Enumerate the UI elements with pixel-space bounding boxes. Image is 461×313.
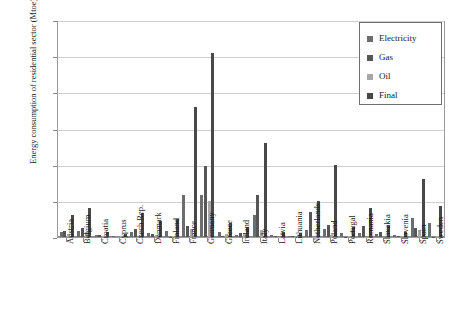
- bar: [218, 232, 221, 237]
- bar-group: [321, 22, 339, 237]
- x-tick-label: Denmark: [154, 212, 163, 244]
- x-tick-label: Spain: [419, 225, 428, 244]
- x-label-cell: Lithuania: [286, 244, 304, 312]
- legend-swatch: [367, 74, 373, 80]
- bar: [165, 231, 168, 237]
- x-tick-label: Latvia: [278, 222, 287, 244]
- x-label-cell: Poland: [322, 244, 340, 312]
- bar-group: [339, 22, 357, 237]
- bar-group: [251, 22, 269, 237]
- x-label-cell: Germany: [198, 244, 216, 312]
- x-tick-label: Czech Rep.: [136, 205, 145, 244]
- x-tick-label: Cyprus: [119, 219, 128, 244]
- x-label-cell: Latvia: [269, 244, 287, 312]
- x-tick-label: Lithuania: [295, 211, 304, 244]
- x-label-cell: Portugal: [339, 244, 357, 312]
- x-label-cell: Croatia: [92, 244, 110, 312]
- x-label-cell: Ireland: [233, 244, 251, 312]
- legend-swatch: [367, 55, 373, 61]
- bar: [411, 218, 414, 237]
- x-label-cell: Cyprus: [110, 244, 128, 312]
- bar-group: [111, 22, 129, 237]
- legend-swatch: [367, 36, 373, 42]
- x-axis-tick-labels: AustriaBelgiumCroatiaCyprusCzech Rep.Den…: [57, 244, 445, 312]
- x-label-cell: Denmark: [145, 244, 163, 312]
- x-tick-label: Italy: [260, 228, 269, 244]
- x-tick-label: Poland: [330, 220, 339, 244]
- x-label-cell: Netherlands: [304, 244, 322, 312]
- x-tick-label: Sweden: [436, 217, 445, 244]
- bar-group: [216, 22, 234, 237]
- bar: [270, 235, 273, 237]
- x-tick-label: Romania: [366, 213, 375, 244]
- x-tick-label: Greece: [225, 220, 234, 244]
- bar: [323, 229, 326, 237]
- bar-group: [181, 22, 199, 237]
- x-tick-label: France: [189, 221, 198, 244]
- y-axis-title: Energy consumption of residential sector…: [28, 0, 39, 166]
- bar: [264, 143, 267, 237]
- bar-group: [286, 22, 304, 237]
- legend-label: Oil: [379, 72, 391, 81]
- bar: [200, 195, 203, 237]
- bar: [211, 53, 214, 237]
- x-tick-label: Netherlands: [313, 203, 322, 244]
- x-tick-label: Germany: [207, 212, 216, 244]
- bar: [235, 235, 238, 237]
- x-tick-label: Ireland: [242, 220, 251, 244]
- legend-item: Final: [367, 86, 441, 105]
- x-tick-label: Slovenia: [401, 214, 410, 244]
- x-label-cell: France: [180, 244, 198, 312]
- x-label-cell: Greece: [216, 244, 234, 312]
- bar: [77, 231, 80, 237]
- legend-label: Electricity: [379, 34, 416, 43]
- bar-group: [198, 22, 216, 237]
- bar: [182, 195, 185, 237]
- bar: [95, 235, 98, 237]
- bar: [112, 236, 115, 237]
- bar-group: [146, 22, 164, 237]
- x-label-cell: Romania: [357, 244, 375, 312]
- x-tick-label: Austria: [66, 219, 75, 244]
- legend-label: Final: [379, 91, 398, 100]
- bar: [375, 234, 378, 237]
- bar: [60, 232, 63, 237]
- bar: [414, 228, 417, 237]
- x-tick-label: Croatia: [101, 219, 110, 244]
- x-label-cell: Czech Rep.: [128, 244, 146, 312]
- bar: [428, 223, 431, 237]
- bar-group: [163, 22, 181, 237]
- x-label-cell: Slovenia: [392, 244, 410, 312]
- legend-swatch: [367, 93, 373, 99]
- bar-group: [233, 22, 251, 237]
- bar: [393, 235, 396, 237]
- x-tick-label: Portugal: [348, 215, 357, 244]
- bar-group: [76, 22, 94, 237]
- bar-group: [58, 22, 76, 237]
- bar-chart: Energy consumption of residential sector…: [0, 0, 461, 313]
- legend: ElectricityGasOilFinal: [359, 22, 442, 105]
- legend-item: Oil: [367, 67, 441, 86]
- bar: [147, 233, 150, 237]
- bar: [340, 233, 343, 237]
- x-label-cell: Spain: [410, 244, 428, 312]
- legend-label: Gas: [379, 53, 393, 62]
- bar: [288, 236, 291, 237]
- x-label-cell: Italy: [251, 244, 269, 312]
- x-label-cell: Austria: [57, 244, 75, 312]
- bar: [130, 232, 133, 237]
- bar: [305, 230, 308, 237]
- x-label-cell: Finland: [163, 244, 181, 312]
- x-label-cell: Slovakia: [375, 244, 393, 312]
- bar: [194, 107, 197, 237]
- x-tick-label: Finland: [172, 218, 181, 244]
- bar: [253, 215, 256, 237]
- x-label-cell: Sweden: [427, 244, 445, 312]
- x-tick-label: Belgium: [83, 215, 92, 244]
- bar: [358, 233, 361, 237]
- legend-item: Gas: [367, 48, 441, 67]
- legend-item: Electricity: [367, 29, 441, 48]
- x-tick-label: Slovakia: [383, 214, 392, 244]
- x-label-cell: Belgium: [75, 244, 93, 312]
- bar-group: [93, 22, 111, 237]
